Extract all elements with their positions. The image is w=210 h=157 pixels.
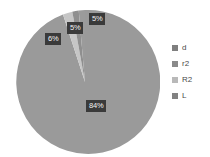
chart-legend: d r2 R2 L [172,40,210,104]
pie-chart: 5% 5% 6% 84% d r2 R2 L [0,0,210,157]
legend-item-label: r2 [182,60,189,68]
pie-data-label: 5% [67,22,83,34]
legend-item-R2[interactable]: R2 [172,72,210,88]
pie-slice-L[interactable] [16,10,160,154]
legend-item-label: R2 [182,76,192,84]
legend-swatch-icon [172,61,178,67]
legend-swatch-icon [172,93,178,99]
pie-data-label: 5% [89,13,105,25]
pie-data-label: 84% [86,100,106,112]
legend-item-label: L [182,92,186,100]
pie-data-label: 6% [45,33,61,45]
legend-item-L[interactable]: L [172,88,210,104]
legend-swatch-icon [172,45,178,51]
legend-item-r2[interactable]: r2 [172,56,210,72]
legend-item-label: d [182,44,186,52]
pie-plot-area: 5% 5% 6% 84% [0,0,160,157]
legend-swatch-icon [172,77,178,83]
legend-item-d[interactable]: d [172,40,210,56]
